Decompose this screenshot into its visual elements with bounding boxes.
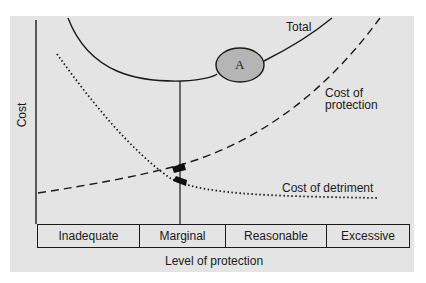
y-axis-label: Cost: [15, 95, 29, 135]
level-inadequate: Inadequate: [38, 225, 140, 247]
detriment-cost-curve: [57, 54, 378, 198]
total-curve: [68, 18, 217, 81]
x-axis-label: Level of protection: [165, 255, 263, 267]
protection-level-scale: Inadequate Marginal Reasonable Excessive: [37, 224, 410, 248]
protection-arrow-icon: [172, 163, 186, 173]
total-curve-label: Total: [286, 21, 311, 33]
level-reasonable: Reasonable: [226, 225, 327, 247]
protection-curve-label-line2: protection: [325, 99, 378, 111]
detriment-curve-label: Cost of detriment: [282, 182, 373, 194]
level-excessive: Excessive: [327, 225, 409, 247]
marker-a-label: A: [235, 59, 244, 71]
level-marginal: Marginal: [140, 225, 226, 247]
